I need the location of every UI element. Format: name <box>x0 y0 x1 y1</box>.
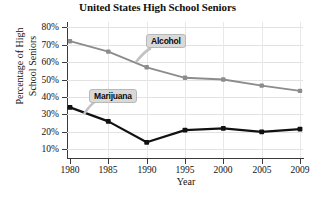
x-tick-label: 1985 <box>88 165 128 176</box>
x-tick-mark <box>223 159 224 164</box>
x-tick-label: 2000 <box>203 165 243 176</box>
y-tick-mark <box>62 149 67 150</box>
y-tick-mark <box>62 80 67 81</box>
y-tick-label: 40% <box>24 92 59 102</box>
chart-figure: United States High School Seniors Percen… <box>0 0 315 199</box>
gridline-vertical <box>300 22 301 158</box>
y-tick-mark <box>62 62 67 63</box>
x-axis-label: Year <box>60 176 312 187</box>
x-tick-mark <box>185 159 186 164</box>
gridline-vertical <box>223 22 224 158</box>
y-tick-mark <box>62 114 67 115</box>
x-tick-label: 2009 <box>280 165 315 176</box>
x-tick-mark <box>262 159 263 164</box>
x-tick-mark <box>108 159 109 164</box>
y-tick-label: 70% <box>24 40 59 50</box>
y-tick-label: 80% <box>24 22 59 32</box>
page-title: United States High School Seniors <box>0 1 315 13</box>
y-axis-line <box>67 22 68 159</box>
y-tick-label: 50% <box>24 75 59 85</box>
x-tick-mark <box>70 159 71 164</box>
x-tick-mark <box>147 159 148 164</box>
x-tick-label: 1990 <box>127 165 167 176</box>
y-tick-label: 20% <box>24 127 59 137</box>
annotation-alcohol: Alcohol <box>146 34 186 48</box>
y-tick-mark <box>62 132 67 133</box>
y-tick-mark <box>62 97 67 98</box>
gridline-vertical <box>262 22 263 158</box>
y-tick-label: 30% <box>24 109 59 119</box>
annotation-marijuana: Marijuana <box>89 89 137 103</box>
x-tick-label: 2005 <box>242 165 282 176</box>
y-tick-mark <box>62 27 67 28</box>
x-tick-label: 1980 <box>50 165 90 176</box>
y-tick-label: 60% <box>24 57 59 67</box>
y-tick-mark <box>62 45 67 46</box>
y-tick-label: 10% <box>24 144 59 154</box>
x-tick-label: 1995 <box>165 165 205 176</box>
x-tick-mark <box>300 159 301 164</box>
